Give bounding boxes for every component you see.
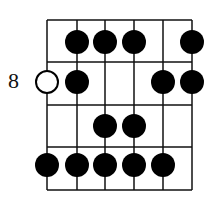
note-dot <box>35 153 59 177</box>
note-dots <box>35 30 204 177</box>
note-dot <box>93 114 117 138</box>
note-dot <box>180 70 204 94</box>
note-dot <box>151 153 175 177</box>
note-dot <box>93 153 117 177</box>
root-note-open-dot <box>36 71 58 93</box>
note-dot <box>65 30 89 54</box>
note-dot <box>122 30 146 54</box>
note-dot <box>65 70 89 94</box>
note-dot <box>180 30 204 54</box>
note-dot <box>122 153 146 177</box>
note-dot <box>93 30 117 54</box>
fretboard-diagram <box>0 0 219 197</box>
note-dot <box>151 70 175 94</box>
note-dot <box>122 114 146 138</box>
note-dot <box>65 153 89 177</box>
